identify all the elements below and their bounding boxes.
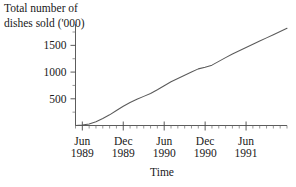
y-axis-major-ticks [71, 45, 76, 98]
data-series-line [76, 28, 288, 125]
x-axis-major-ticks [82, 122, 246, 131]
x-tick-label-year: 1990 [194, 147, 217, 159]
x-axis-title: Time [0, 166, 296, 178]
x-tick-label-year: 1989 [71, 147, 94, 159]
y-axis-tick-labels: 50010001500 [44, 39, 67, 104]
x-tick-label-month: Jun [238, 135, 254, 147]
x-tick-label-month: Jun [74, 135, 90, 147]
line-chart-plot: 50010001500 Jun1989Dec1989Jun1990Dec1990… [0, 0, 296, 187]
x-tick-label-month: Dec [114, 135, 133, 147]
x-tick-label-year: 1990 [153, 147, 176, 159]
x-axis-tick-labels: Jun1989Dec1989Jun1990Dec1990Jun1991 [71, 135, 258, 159]
y-tick-label: 1000 [44, 66, 67, 78]
x-tick-label-year: 1989 [112, 147, 135, 159]
y-tick-label: 500 [49, 93, 67, 105]
x-axis: Jun1989Dec1989Jun1990Dec1990Jun1991 [71, 122, 287, 159]
x-axis-title-text: Time [150, 166, 174, 178]
chart-figure: Total number of dishes sold ('000) 50010… [0, 0, 296, 187]
y-axis: 50010001500 [44, 24, 76, 125]
x-tick-label-year: 1991 [235, 147, 258, 159]
x-tick-label-month: Dec [196, 135, 215, 147]
y-tick-label: 1500 [44, 39, 67, 51]
x-tick-label-month: Jun [156, 135, 172, 147]
